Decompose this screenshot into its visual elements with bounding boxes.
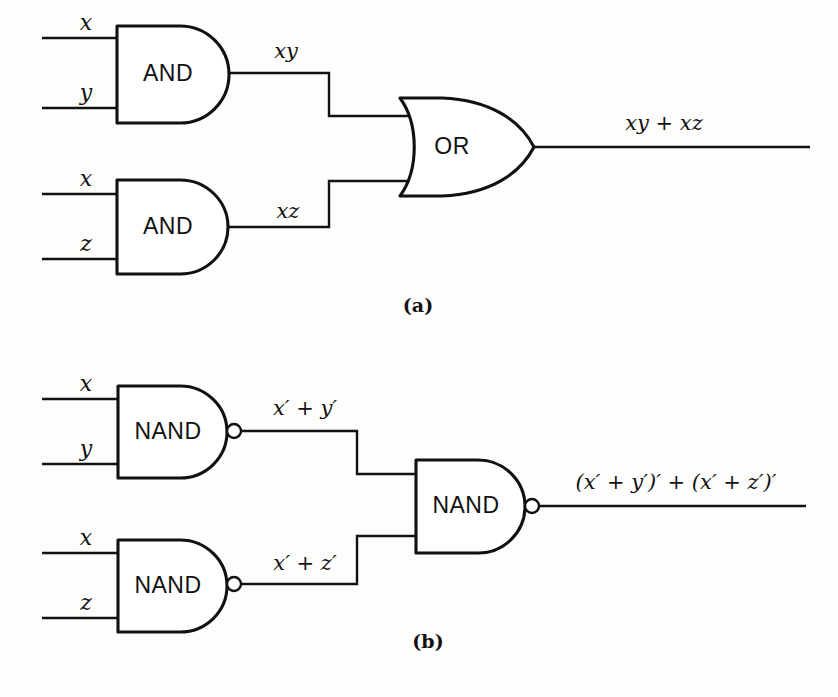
label-a-input-z: z bbox=[79, 231, 92, 256]
and-gate-bottom-label: AND bbox=[143, 213, 193, 239]
and-gate-top-label: AND bbox=[143, 60, 193, 86]
label-a-input-x2: x bbox=[80, 166, 93, 191]
caption-part-a: (a) bbox=[403, 294, 433, 316]
part-a-group: AND x y AND x z OR xy bbox=[42, 10, 810, 316]
wire-b-xy bbox=[241, 431, 416, 474]
part-b-group: NAND x y NAND x z NAND bbox=[42, 371, 806, 652]
label-a-output: xy + xz bbox=[625, 111, 703, 135]
and-gate-bottom[interactable]: AND bbox=[117, 180, 228, 274]
label-b-xy: x′ + y′ bbox=[273, 396, 337, 420]
nand-gate-right-label: NAND bbox=[432, 492, 499, 518]
label-b-input-y: y bbox=[79, 436, 93, 461]
nand-gate-right[interactable]: NAND bbox=[416, 460, 539, 553]
or-gate[interactable]: OR bbox=[400, 98, 534, 196]
wire-a-xz bbox=[228, 181, 409, 227]
logic-diagram-figure: AND x y AND x z OR xy bbox=[0, 0, 838, 697]
nand-gate-top[interactable]: NAND bbox=[118, 386, 241, 478]
nand-gate-right-bubble-icon bbox=[525, 499, 539, 513]
label-b-output: (x′ + y′)′ + (x′ + z′)′ bbox=[576, 470, 777, 494]
label-b-xz: x′ + z′ bbox=[273, 551, 337, 575]
label-a-input-y: y bbox=[79, 80, 93, 105]
label-b-input-x1: x bbox=[80, 371, 93, 396]
wire-a-xy bbox=[228, 73, 409, 116]
nand-gate-bottom[interactable]: NAND bbox=[118, 540, 241, 632]
label-b-input-x2: x bbox=[80, 525, 93, 550]
caption-part-b: (b) bbox=[412, 630, 443, 652]
nand-gate-bottom-bubble-icon bbox=[227, 577, 241, 591]
label-a-xy: xy bbox=[274, 39, 299, 63]
label-b-input-z: z bbox=[79, 590, 92, 615]
or-gate-label: OR bbox=[434, 133, 470, 159]
logic-diagram-canvas: AND x y AND x z OR xy bbox=[0, 0, 838, 697]
nand-gate-bottom-label: NAND bbox=[134, 572, 201, 598]
nand-gate-top-bubble-icon bbox=[227, 424, 241, 438]
nand-gate-top-label: NAND bbox=[134, 418, 201, 444]
label-a-xz: xz bbox=[277, 199, 301, 223]
label-a-input-x1: x bbox=[80, 10, 93, 35]
and-gate-top[interactable]: AND bbox=[117, 26, 229, 123]
